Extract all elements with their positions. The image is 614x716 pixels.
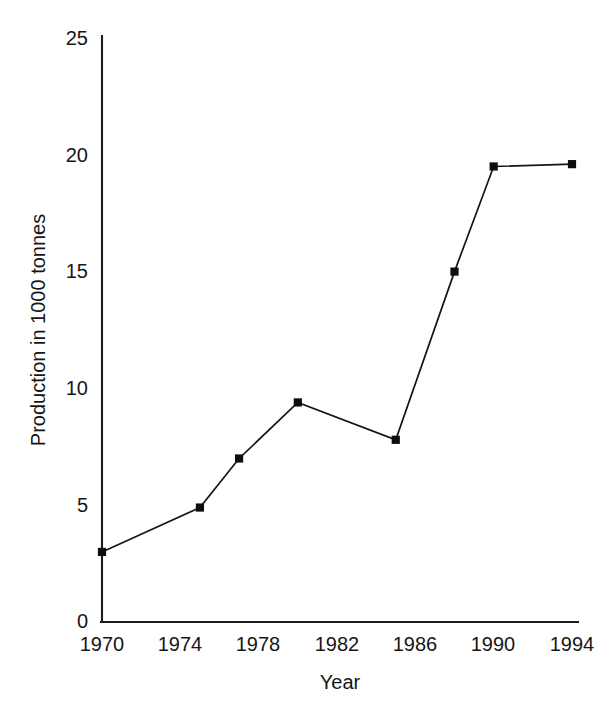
x-tick-label-1986: 1986 (393, 633, 438, 656)
x-tick-label-1978: 1978 (236, 633, 281, 656)
data-point-marker (450, 268, 458, 276)
y-tick-label-5: 5 (42, 494, 88, 517)
x-tick-label-1990: 1990 (471, 633, 516, 656)
x-tick-label-1994: 1994 (550, 633, 595, 656)
data-point-marker (294, 398, 302, 406)
x-axis-title: Year (320, 671, 360, 694)
y-tick-label-25: 25 (42, 27, 88, 50)
x-tick-label-1982: 1982 (315, 633, 360, 656)
data-point-marker (392, 436, 400, 444)
y-tick-label-20: 20 (42, 144, 88, 167)
series-markers-production (98, 160, 576, 556)
plot-area (0, 0, 614, 716)
y-tick-label-0: 0 (42, 610, 88, 633)
data-point-marker (196, 503, 204, 511)
data-point-marker (235, 454, 243, 462)
line-chart-figure: 25 20 15 10 5 0 1970 1974 1978 1982 1986… (0, 0, 614, 716)
x-tick-label-1970: 1970 (80, 633, 125, 656)
data-point-marker (490, 162, 498, 170)
y-axis-title: Production in 1000 tonnes (27, 214, 50, 446)
data-point-marker (98, 548, 106, 556)
data-point-marker (568, 160, 576, 168)
series-line-production (102, 164, 572, 552)
x-tick-label-1974: 1974 (158, 633, 203, 656)
